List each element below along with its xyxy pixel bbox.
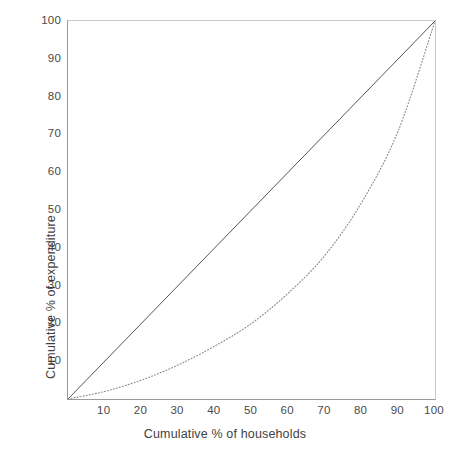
lorenz-curve-chart: 102030405060708090100 Cumulative % of ex… (0, 0, 450, 451)
x-tick-label: 90 (377, 404, 417, 416)
plot-svg (68, 21, 435, 399)
y-tick-label: 100 (31, 14, 61, 26)
x-tick-label: 50 (231, 404, 271, 416)
equality-line (68, 21, 435, 399)
x-tick-label: 20 (120, 404, 160, 416)
x-tick-label: 70 (304, 404, 344, 416)
x-tick-label: 100 (414, 404, 450, 416)
x-tick-label: 80 (341, 404, 381, 416)
x-tick-label: 30 (157, 404, 197, 416)
x-tick-label: 60 (267, 404, 307, 416)
y-axis-title: Cumulative % of expenditure (44, 182, 58, 412)
y-tick-label: 90 (31, 52, 61, 64)
plot-area (67, 20, 436, 400)
x-tick-label: 40 (194, 404, 234, 416)
series-layer (68, 21, 435, 399)
y-axis-title-wrapper: Cumulative % of expenditure (22, 90, 38, 320)
x-axis-tick-labels: 102030405060708090100 (0, 404, 450, 420)
x-axis-title: Cumulative % of households (0, 427, 450, 441)
x-tick-label: 10 (84, 404, 124, 416)
